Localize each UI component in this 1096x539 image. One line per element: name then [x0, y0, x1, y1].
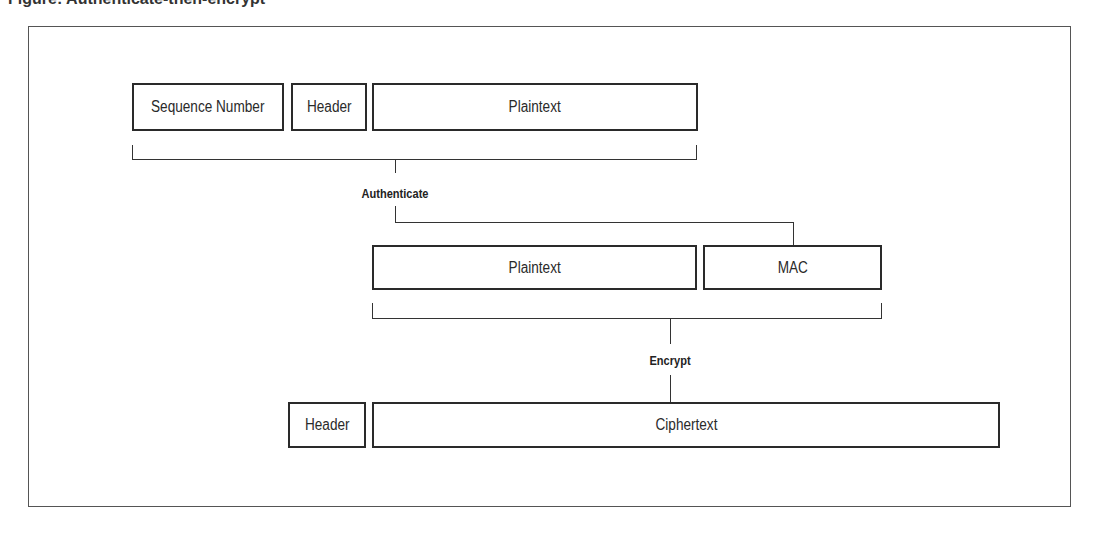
ciphertext-box: Ciphertext — [372, 402, 1000, 448]
header-box-row1: Header — [291, 83, 367, 131]
mac-label: MAC — [777, 259, 807, 277]
bracket2-bottom — [372, 318, 882, 319]
header-label-row3: Header — [305, 416, 350, 434]
bracket2-right — [881, 303, 882, 318]
bracket1-stem — [395, 159, 396, 173]
auth-connector-across — [395, 222, 793, 223]
plaintext-label-row1: Plaintext — [509, 98, 561, 116]
encrypt-connector — [670, 375, 671, 402]
encrypt-label: Encrypt — [649, 353, 690, 368]
bracket2-stem — [670, 318, 671, 344]
sequence-number-label: Sequence Number — [151, 98, 264, 116]
mac-box: MAC — [703, 245, 882, 290]
figure-caption: Figure: Authenticate-then-encrypt — [8, 0, 265, 8]
ciphertext-label: Ciphertext — [655, 416, 717, 434]
bracket1-right — [696, 145, 697, 159]
bracket2-left — [372, 303, 373, 318]
header-label-row1: Header — [307, 98, 352, 116]
plaintext-box-row1: Plaintext — [372, 83, 698, 131]
bracket1-left — [132, 145, 133, 159]
authenticate-label: Authenticate — [362, 186, 429, 201]
plaintext-box-row2: Plaintext — [372, 245, 697, 290]
bracket1-bottom — [132, 159, 697, 160]
plaintext-label-row2: Plaintext — [508, 259, 560, 277]
auth-connector-to-mac — [793, 222, 794, 245]
auth-connector-down — [395, 206, 396, 222]
header-box-row3: Header — [288, 402, 366, 448]
sequence-number-box: Sequence Number — [132, 83, 284, 131]
